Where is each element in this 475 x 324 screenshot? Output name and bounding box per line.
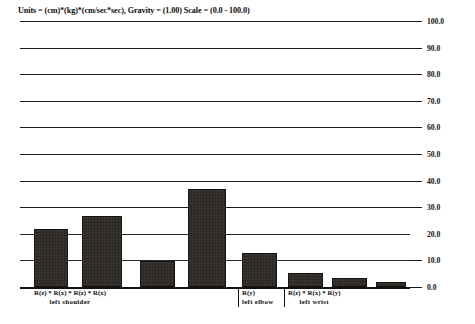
group-joint-name: left shoulder: [34, 298, 106, 307]
bar: [82, 216, 122, 287]
y-axis-label: 0.0: [427, 283, 437, 292]
y-axis-tick: [410, 207, 422, 208]
group-joint-name: left elbow: [242, 298, 274, 307]
y-axis-label: 40.0: [427, 176, 440, 185]
y-axis-label: 100.0: [427, 17, 444, 26]
y-axis-tick: [410, 48, 422, 49]
bar: [188, 189, 226, 287]
bar-chart: Units = (cm)*(kg)*(cm/sec*sec), Gravity …: [0, 0, 475, 324]
group-rotations: R(z) * R(x) * R(y): [288, 289, 340, 298]
x-axis-group-left-elbow: R(y)left elbow: [242, 289, 274, 306]
y-axis-tick: [410, 154, 422, 155]
group-rotations: R(z) * R(x) * R(z) * R(x): [34, 289, 106, 298]
y-axis-label: 60.0: [427, 123, 440, 132]
y-axis-label: 70.0: [427, 96, 440, 105]
bars-layer: [20, 21, 410, 287]
bar: [288, 273, 323, 287]
y-axis-label: 20.0: [427, 229, 440, 238]
y-axis-tick: [410, 101, 422, 102]
y-axis-label: 90.0: [427, 43, 440, 52]
y-axis-tick: [410, 74, 422, 75]
y-axis-tick: [410, 287, 422, 288]
chart-title: Units = (cm)*(kg)*(cm/sec*sec), Gravity …: [18, 6, 250, 15]
x-axis-group-left-wrist: R(z) * R(x) * R(y)left wrist: [288, 289, 340, 306]
group-separator: [284, 287, 285, 307]
y-axis-tick: [410, 181, 422, 182]
y-axis-label: 80.0: [427, 70, 440, 79]
bar: [332, 278, 367, 287]
group-separator: [238, 287, 239, 307]
x-axis-group-left-shoulder: R(z) * R(x) * R(z) * R(x)left shoulder: [34, 289, 106, 306]
bar: [242, 253, 277, 287]
bar: [140, 261, 175, 287]
y-axis-tick: [410, 21, 422, 22]
y-axis-label: 50.0: [427, 150, 440, 159]
y-axis-label: 30.0: [427, 203, 440, 212]
y-axis-tick: [410, 127, 422, 128]
group-rotations: R(y): [242, 289, 274, 298]
y-axis-label: 10.0: [427, 256, 440, 265]
group-joint-name: left wrist: [288, 298, 340, 307]
y-axis-tick: [410, 260, 422, 261]
bar: [34, 229, 68, 287]
